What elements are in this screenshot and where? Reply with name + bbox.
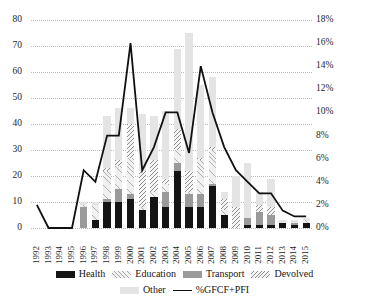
legend-row-secondary: Other%GFCF+PFI [0,282,369,298]
legend-swatch-line-icon [173,287,192,294]
y-axis-right-tick: 6% [316,154,350,164]
y-axis-right-tick: 2% [316,200,350,210]
legend-label: %GFCF+PFI [196,285,249,295]
x-axis-label: 2012 [266,246,275,264]
y-axis-left: 01020304050607080 [0,20,27,228]
legend-swatch-education-icon [112,271,131,278]
chart-legend: HealthEducationTransportDevolved Other%G… [0,266,369,298]
x-axis-label: 1997 [90,246,99,264]
y-axis-right-tick: 12% [316,84,350,94]
x-axis-label: 1999 [114,246,123,264]
x-axis-label: 2003 [161,246,170,264]
x-axis-label: 1993 [44,246,53,264]
gridline [31,228,312,229]
x-axis-label: 2004 [172,246,181,264]
legend-label: Devolved [274,269,313,279]
y-axis-left-tick: 30 [0,145,22,155]
plot-area [31,20,312,228]
y-axis-right-tick: 10% [316,107,350,117]
x-axis-label: 2010 [243,246,252,264]
y-axis-left-tick: 20 [0,171,22,181]
legend-item-transport[interactable]: Transport [183,269,245,279]
y-axis-right: 0%2%4%6%8%10%12%14%16%18% [316,20,369,228]
y-axis-left-tick: 80 [0,15,22,25]
y-axis-left-tick: 60 [0,67,22,77]
x-axis-label: 2014 [289,246,298,264]
x-axis-label: 1995 [67,246,76,264]
y-axis-left-tick: 70 [0,41,22,51]
y-axis-right-tick: 18% [316,15,350,25]
line-series-gfcf-pfi [31,20,312,228]
x-axis-label: 2007 [207,246,216,264]
x-axis-label: 1992 [32,246,41,264]
legend-row-primary: HealthEducationTransportDevolved [0,266,369,282]
x-axis-label: 1998 [102,246,111,264]
legend-item-line[interactable]: %GFCF+PFI [173,285,249,295]
x-axis-label: 2011 [254,246,263,264]
legend-label: Health [79,269,106,279]
legend-label: Transport [206,269,245,279]
x-axis-label: 1996 [79,246,88,264]
x-axis-label: 2013 [278,246,287,264]
legend-swatch-devolved-icon [251,271,270,278]
x-axis-label: 2009 [231,246,240,264]
x-axis-label: 2001 [137,246,146,264]
y-axis-left-tick: 0 [0,223,22,233]
x-axis-label: 2015 [301,246,310,264]
legend-item-education[interactable]: Education [112,269,176,279]
legend-swatch-transport-icon [183,271,202,278]
legend-item-devolved[interactable]: Devolved [251,269,313,279]
legend-item-other[interactable]: Other [120,285,166,295]
x-axis-label: 2000 [126,246,135,264]
x-axis-label: 2006 [196,246,205,264]
y-axis-right-tick: 4% [316,177,350,187]
chart-container: 01020304050607080 0%2%4%6%8%10%12%14%16%… [0,0,369,301]
y-axis-right-tick: 14% [316,61,350,71]
y-axis-right-tick: 0% [316,223,350,233]
y-axis-right-tick: 8% [316,131,350,141]
legend-label: Other [143,285,166,295]
x-axis-label: 2005 [184,246,193,264]
x-axis-labels: 1992199319941995199619971998199920002001… [31,230,312,264]
legend-swatch-other-icon [120,287,139,294]
legend-swatch-health-icon [56,271,75,278]
y-axis-left-tick: 40 [0,119,22,129]
legend-label: Education [135,269,176,279]
x-axis-label: 2002 [149,246,158,264]
y-axis-left-tick: 10 [0,197,22,207]
legend-item-health[interactable]: Health [56,269,106,279]
y-axis-right-tick: 16% [316,38,350,48]
x-axis-label: 1994 [55,246,64,264]
x-axis-label: 2008 [219,246,228,264]
y-axis-left-tick: 50 [0,93,22,103]
